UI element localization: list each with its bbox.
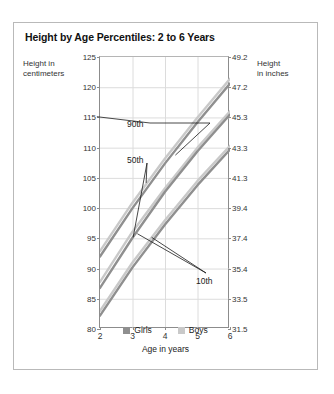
annotation-10th: 10th (196, 276, 213, 286)
y-tick-right-mark (228, 299, 231, 300)
y-tick-left-mark (97, 117, 100, 118)
y-tick-left-mark (97, 148, 100, 149)
y-tick-left-label: 120 (83, 83, 96, 92)
y-axis-right-label-line2: in inches (257, 69, 289, 79)
y-tick-left-label: 105 (83, 173, 96, 182)
legend-item-boys: Boys (178, 325, 208, 335)
y-axis-right-label-line1: Height (257, 59, 289, 69)
y-tick-left-label: 100 (83, 204, 96, 213)
y-axis-left-label-line2: centimeters (23, 69, 64, 79)
legend-item-girls: Girls (123, 325, 151, 335)
legend-swatch-girls-icon (123, 327, 130, 334)
annotation-90th: 90th (127, 119, 144, 129)
y-tick-right-mark (228, 208, 231, 209)
y-tick-right-mark (228, 117, 231, 118)
legend-label-girls: Girls (134, 325, 151, 335)
annotation-50th: 50th (127, 155, 144, 165)
y-axis-left-label-line1: Height in (23, 59, 64, 69)
chart-card: Height by Age Percentiles: 2 to 6 Years … (13, 22, 318, 370)
y-tick-right-label: 49.2 (232, 53, 248, 62)
y-tick-right-label: 39.4 (232, 204, 248, 213)
y-axis-right-label: Height in inches (257, 59, 289, 79)
y-tick-right-mark (228, 148, 231, 149)
y-tick-right-mark (228, 269, 231, 270)
y-tick-left-label: 95 (87, 234, 96, 243)
y-tick-left-mark (97, 178, 100, 179)
y-tick-right-label: 45.3 (232, 113, 248, 122)
y-tick-left-mark (97, 269, 100, 270)
legend-label-boys: Boys (189, 325, 208, 335)
y-tick-right-label: 41.3 (232, 173, 248, 182)
y-axis-left-label: Height in centimeters (23, 59, 64, 79)
y-tick-right-label: 33.5 (232, 294, 248, 303)
y-tick-left-mark (97, 87, 100, 88)
legend-swatch-boys-icon (178, 327, 185, 334)
y-tick-right-mark (228, 238, 231, 239)
plot-area: 80859095100105110115120125 31.533.535.43… (99, 56, 229, 328)
series-lines (100, 57, 230, 329)
y-tick-left-label: 125 (83, 53, 96, 62)
y-tick-left-label: 85 (87, 294, 96, 303)
y-tick-right-mark (228, 57, 231, 58)
y-tick-left-label: 110 (83, 143, 96, 152)
y-tick-left-mark (97, 208, 100, 209)
y-tick-right-label: 47.2 (232, 83, 248, 92)
legend: Girls Boys (14, 325, 317, 335)
y-tick-right-label: 37.4 (232, 234, 248, 243)
y-tick-right-mark (228, 87, 231, 88)
y-tick-left-label: 115 (83, 113, 96, 122)
y-tick-right-mark (228, 178, 231, 179)
y-tick-left-mark (97, 238, 100, 239)
page-title: Height by Age Percentiles: 2 to 6 Years (25, 31, 215, 43)
y-tick-left-mark (97, 299, 100, 300)
y-tick-left-label: 90 (87, 264, 96, 273)
y-tick-right-label: 35.4 (232, 264, 248, 273)
x-axis-label: Age in years (14, 344, 317, 354)
y-tick-left-mark (97, 57, 100, 58)
y-tick-right-label: 43.3 (232, 143, 248, 152)
